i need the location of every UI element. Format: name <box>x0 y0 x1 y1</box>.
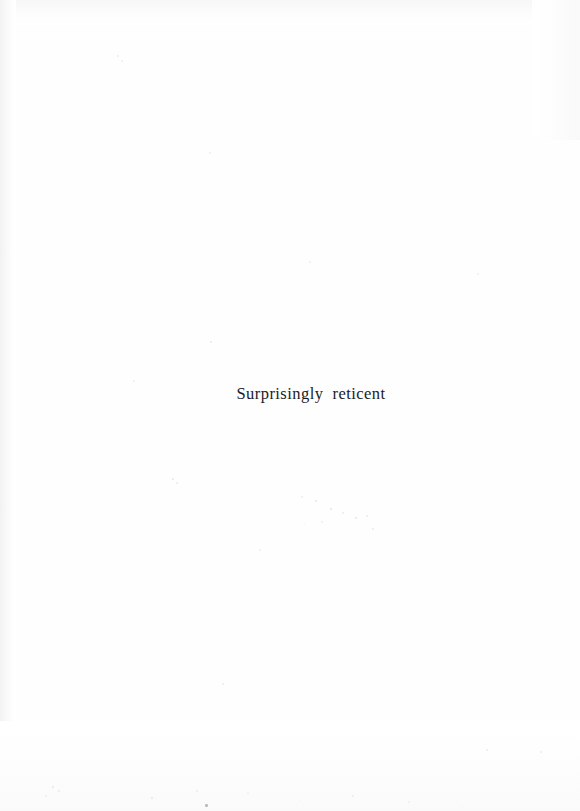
page-text-line: Surprisingly reticent <box>0 383 580 404</box>
paper-background <box>0 0 580 811</box>
scanned-page: Surprisingly reticent <box>0 0 580 811</box>
